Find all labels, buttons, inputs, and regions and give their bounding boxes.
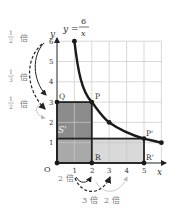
label-Q: Q: [59, 92, 65, 101]
svg-text:1: 1: [9, 29, 13, 36]
label-R: R: [95, 153, 101, 162]
point-O: [55, 161, 60, 166]
x-ratio-label-2: 3 倍: [82, 195, 98, 205]
origin-label: O: [44, 165, 51, 174]
point-R: [89, 161, 94, 166]
x-ratio-labels: 2 倍 3 倍 2 倍: [58, 173, 120, 205]
svg-text:5: 5: [142, 167, 146, 175]
x-axis-label: x: [157, 167, 162, 177]
y-ratio-label-1: 1 2 倍: [8, 29, 28, 44]
point-start: [72, 39, 77, 44]
y-ratio-arrows: [30, 43, 46, 118]
svg-text:1: 1: [49, 139, 53, 147]
svg-text:5: 5: [49, 58, 53, 66]
x-ratio-label-3: 2 倍: [104, 195, 120, 205]
label-R-prime: R': [146, 153, 154, 162]
svg-text:2: 2: [9, 103, 13, 110]
svg-text:4: 4: [49, 78, 54, 86]
y-ratio-label-2: 1 3 倍: [8, 68, 28, 83]
label-P-prime: P': [146, 129, 153, 138]
y-ratio-labels: 1 2 倍 1 3 倍 1 2 倍: [8, 29, 28, 110]
svg-text:y =: y =: [62, 24, 79, 34]
x-ratio-arrows: [75, 177, 127, 191]
region-label: S': [58, 125, 67, 135]
svg-text:倍: 倍: [20, 33, 28, 43]
svg-text:6: 6: [81, 17, 86, 26]
svg-text:2: 2: [49, 119, 53, 127]
svg-text:3: 3: [49, 99, 53, 107]
svg-text:6: 6: [49, 38, 54, 46]
equation-label: y = 6 x: [62, 17, 89, 38]
svg-text:倍: 倍: [20, 72, 28, 82]
x-tick-labels: 1 2 3 4 5: [73, 167, 147, 175]
graph-canvas: y = 6 x y x O 1 2 3 4 5 6 1 2 3 4 5 Q: [0, 0, 178, 214]
svg-text:x: x: [81, 29, 86, 38]
y-tick-labels: 1 2 3 4 5 6: [49, 38, 54, 147]
svg-text:2: 2: [90, 167, 94, 175]
inverse-proportion-diagram: y = 6 x y x O 1 2 3 4 5 6 1 2 3 4 5 Q: [0, 0, 178, 214]
svg-text:1: 1: [9, 68, 13, 75]
svg-text:2: 2: [9, 37, 13, 44]
point-P: [89, 100, 94, 105]
label-P: P: [95, 92, 100, 101]
svg-text:3: 3: [107, 167, 111, 175]
point-mid: [107, 120, 112, 125]
svg-text:4: 4: [125, 167, 130, 175]
svg-text:3: 3: [9, 76, 13, 83]
point-end: [159, 140, 164, 145]
svg-text:1: 1: [9, 95, 13, 102]
y-ratio-label-3: 1 2 倍: [8, 95, 28, 110]
svg-text:倍: 倍: [20, 99, 28, 109]
x-ratio-label-1: 2 倍: [58, 173, 74, 183]
